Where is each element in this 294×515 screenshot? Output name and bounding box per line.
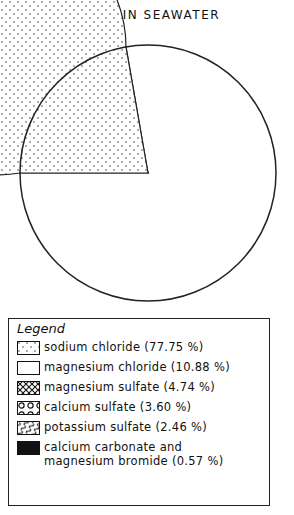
- crosshatch-pattern-icon: [17, 381, 40, 395]
- legend-item-magnesium-sulfate: magnesium sulfate (4.74 %): [17, 380, 261, 395]
- legend-label: magnesium chloride (10.88 %): [44, 360, 230, 374]
- legend-item-sodium-chloride: sodium chloride (77.75 %): [17, 340, 261, 355]
- legend-label: calcium carbonate and magnesium bromide …: [44, 440, 234, 468]
- legend-label: potassium sulfate (2.46 %): [44, 420, 207, 434]
- legend: Legend sodium chloride (77.75 %) magnesi…: [8, 318, 270, 506]
- legend-item-magnesium-chloride: magnesium chloride (10.88 %): [17, 360, 261, 375]
- circles-pattern-icon: [17, 401, 40, 415]
- legend-label: sodium chloride (77.75 %): [44, 340, 203, 354]
- legend-label: calcium sulfate (3.60 %): [44, 400, 191, 414]
- legend-item-calcium-carbonate-magnesium-bromide: calcium carbonate and magnesium bromide …: [17, 440, 261, 468]
- legend-label: magnesium sulfate (4.74 %): [44, 380, 215, 394]
- legend-title: Legend: [17, 321, 261, 336]
- dots-pattern-icon: [17, 341, 40, 355]
- legend-item-potassium-sulfate: potassium sulfate (2.46 %): [17, 420, 261, 435]
- blank-pattern-icon: [17, 361, 40, 375]
- solid-pattern-icon: [17, 441, 40, 455]
- legend-item-calcium-sulfate: calcium sulfate (3.60 %): [17, 400, 261, 415]
- wavy-pattern-icon: [17, 421, 40, 435]
